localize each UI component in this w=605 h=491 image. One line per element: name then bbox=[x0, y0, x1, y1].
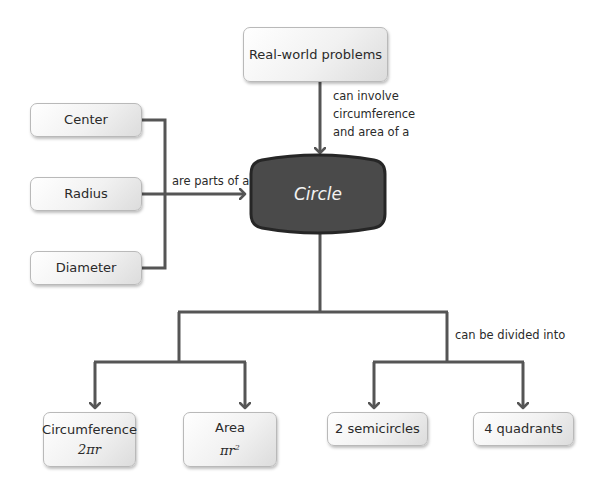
relation-can-be-divided: can be divided into bbox=[455, 326, 565, 344]
node-label: Radius bbox=[64, 184, 108, 204]
node-label: Diameter bbox=[56, 258, 117, 278]
node-formula: πr2 bbox=[220, 438, 240, 461]
relation-line: circumference bbox=[333, 105, 415, 123]
node-label: Center bbox=[64, 110, 108, 130]
circle-node[interactable]: Circle bbox=[251, 157, 385, 231]
formula-exponent: 2 bbox=[235, 443, 240, 452]
node-label: 4 quadrants bbox=[484, 419, 563, 439]
relation-can-involve: can involve circumference and area of a bbox=[333, 87, 415, 141]
relation-line: and area of a bbox=[333, 123, 415, 141]
node-label: 2 semicircles bbox=[335, 419, 420, 439]
relation-line: can involve bbox=[333, 87, 415, 105]
node-area[interactable]: Area πr2 bbox=[183, 412, 277, 467]
node-circumference[interactable]: Circumference 2πr bbox=[43, 412, 136, 467]
formula-base: πr bbox=[220, 443, 235, 458]
node-2-semicircles[interactable]: 2 semicircles bbox=[327, 412, 428, 446]
node-label: Circumference bbox=[42, 420, 137, 440]
circle-node-label: Circle bbox=[294, 184, 342, 204]
node-diameter[interactable]: Diameter bbox=[30, 251, 142, 285]
node-radius[interactable]: Radius bbox=[30, 177, 142, 211]
node-formula: 2πr bbox=[78, 440, 101, 460]
node-label: Area bbox=[215, 418, 245, 438]
node-label: Real-world problems bbox=[249, 45, 382, 65]
node-4-quadrants[interactable]: 4 quadrants bbox=[473, 412, 574, 446]
node-real-world-problems[interactable]: Real-world problems bbox=[243, 27, 388, 82]
relation-are-parts-of: are parts of a bbox=[172, 172, 249, 190]
node-center[interactable]: Center bbox=[30, 103, 142, 137]
